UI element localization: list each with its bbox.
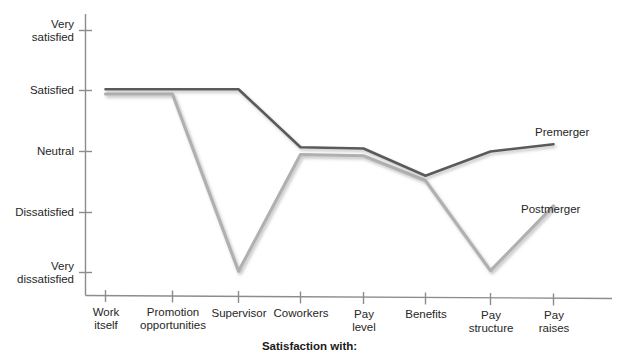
- xtick-label-pay-raises: Pay raises: [506, 309, 602, 335]
- series-line-postmerger: [106, 94, 554, 271]
- x-axis-title: Satisfaction with:: [0, 340, 619, 352]
- chart-figure: Very satisfied Satisfied Neutral Dissati…: [0, 0, 619, 361]
- chart-series-group: [106, 89, 554, 271]
- ytick-label-neutral: Neutral: [2, 145, 74, 158]
- ytick-label-very-dissatisfied: Very dissatisfied: [2, 260, 74, 286]
- series-label-postmerger: Postmerger: [521, 203, 580, 216]
- ytick-label-very-satisfied: Very satisfied: [2, 18, 74, 44]
- chart-axes: [79, 14, 612, 306]
- series-line-premerger: [106, 89, 554, 176]
- ytick-label-dissatisfied: Dissatisfied: [2, 206, 74, 219]
- x-axis-line: [86, 296, 613, 299]
- series-label-premerger: Premerger: [535, 126, 589, 139]
- ytick-label-satisfied: Satisfied: [2, 84, 74, 97]
